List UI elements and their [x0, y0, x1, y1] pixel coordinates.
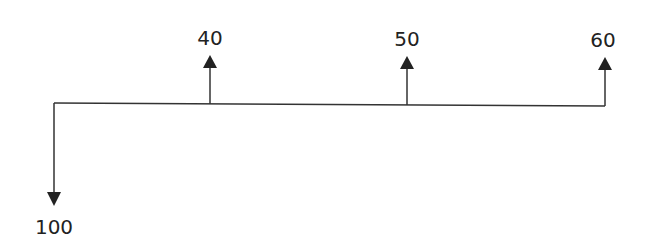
down-arrow-icon [47, 192, 61, 206]
timeline-axis [54, 103, 605, 106]
flow-arrow-inflow-60 [598, 57, 612, 106]
flow-arrow-outflow-100 [47, 103, 61, 206]
flow-arrow-inflow-40 [203, 55, 217, 104]
flow-label-inflow-3: 60 [590, 30, 615, 50]
up-arrow-icon [598, 57, 612, 70]
up-arrow-icon [400, 56, 414, 69]
flow-label-inflow-1: 40 [197, 28, 222, 48]
flow-label-outflow: 100 [35, 217, 73, 237]
up-arrow-icon [203, 55, 217, 68]
cash-flow-diagram [0, 0, 648, 249]
flow-arrow-inflow-50 [400, 56, 414, 105]
flow-label-inflow-2: 50 [394, 29, 419, 49]
